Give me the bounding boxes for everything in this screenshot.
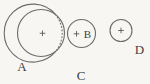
geometry-figure: ABCD: [0, 0, 150, 84]
label-B: B: [84, 28, 91, 40]
center-mark-A: [40, 31, 46, 37]
center-mark-C: [74, 31, 80, 37]
circle-B: [68, 20, 96, 48]
label-C: C: [77, 68, 86, 83]
center-mark-D: [118, 28, 124, 34]
label-A: A: [17, 59, 27, 74]
label-D: D: [135, 42, 144, 57]
circles-diagram: ABCD: [0, 0, 150, 84]
